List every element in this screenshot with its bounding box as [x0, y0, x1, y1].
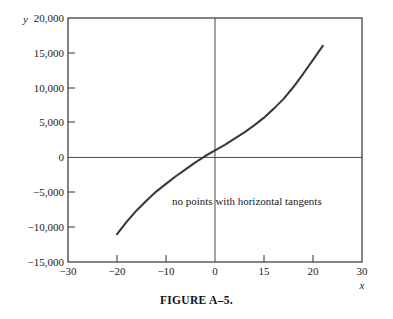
x-tick-label-0: 0: [212, 266, 218, 277]
y-tick-label-10000: 10,000: [0, 83, 64, 94]
x-tick-label-20: 20: [308, 266, 319, 277]
figure-container: y 20,000 15,000 10,000 5,000 0 −5,000 −1…: [0, 0, 393, 319]
y-tick-label-15000: 15,000: [0, 48, 64, 59]
curve-annotation: no points with horizontal tangents: [172, 195, 322, 207]
y-tick-label-neg10000: −10,000: [0, 222, 64, 233]
y-tick-label-neg15000: −15,000: [0, 257, 64, 268]
y-axis-ticks: [68, 53, 75, 227]
figure-caption: FIGURE A–5.: [0, 294, 393, 306]
y-tick-label-neg5000: −5,000: [0, 187, 64, 198]
x-tick-label-neg30: −30: [59, 266, 76, 277]
x-tick-label-neg10: −10: [157, 266, 174, 277]
y-tick-label-0: 0: [0, 152, 64, 163]
x-axis-label: x: [360, 280, 365, 291]
x-tick-label-30: 30: [357, 266, 368, 277]
y-tick-label-20000: 20,000: [0, 13, 64, 24]
x-tick-label-15: 15: [259, 266, 270, 277]
y-tick-label-5000: 5,000: [0, 117, 64, 128]
x-tick-label-neg20: −20: [108, 266, 125, 277]
